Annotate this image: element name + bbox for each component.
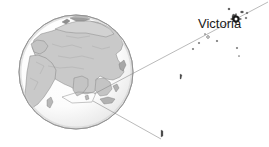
island-platte — [180, 74, 182, 79]
island-desroches — [204, 34, 205, 35]
island-bird-island — [198, 42, 200, 43]
island-denis-island — [192, 48, 194, 49]
island-coetivy — [161, 130, 163, 137]
island-aride — [207, 36, 210, 39]
island-alphonse — [238, 56, 239, 57]
island-la-digue — [246, 12, 248, 14]
locator-map-figure: Victoria — [0, 0, 269, 147]
island-cousin — [236, 47, 238, 48]
island-praslin — [240, 11, 243, 13]
city-label-victoria: Victoria — [198, 17, 241, 31]
island-curieuse — [245, 17, 247, 19]
island-silhouette — [228, 8, 230, 10]
globe — [19, 15, 133, 129]
island-fregate — [216, 40, 218, 41]
